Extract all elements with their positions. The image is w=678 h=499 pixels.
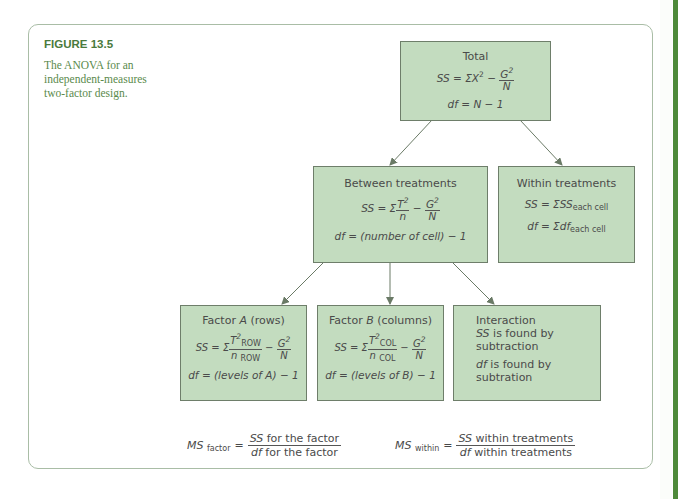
- ms-within-formula: MS within = SS within treatmentsdf withi…: [395, 432, 575, 459]
- total-df: df = N − 1: [401, 98, 550, 110]
- within-label: Within treatments: [499, 177, 634, 190]
- between-df: df = (number of cell) − 1: [314, 230, 487, 242]
- within-df-formula: df = Σdfeach cell: [499, 220, 634, 234]
- total-ss-formula: SS = ΣX2 − G2N: [401, 65, 550, 92]
- arrow-total-to-within: [520, 120, 562, 165]
- interaction-label: Interaction: [476, 314, 590, 327]
- factor-b-box: Factor B (columns) SS = ΣT2COLn COL − G2…: [317, 305, 444, 401]
- between-label: Between treatments: [314, 177, 487, 190]
- ms-factor-formula: MS factor = SS for the factordf for the …: [187, 432, 341, 459]
- factor-b-ss-formula: SS = ΣT2COLn COL − G2N: [318, 331, 443, 364]
- factor-b-label: Factor B (columns): [318, 314, 443, 327]
- within-treatments-box: Within treatments SS = ΣSSeach cell df =…: [498, 166, 635, 263]
- interaction-df-text: df is found by subtration: [476, 358, 576, 384]
- factor-b-df: df = (levels of B) − 1: [318, 369, 443, 381]
- factor-a-box: Factor A (rows) SS = ΣT2ROWn ROW − G2N d…: [180, 305, 307, 401]
- arrow-between-to-factor-a: [282, 262, 324, 304]
- factor-a-label: Factor A (rows): [181, 314, 306, 327]
- factor-a-df: df = (levels of A) − 1: [181, 369, 306, 381]
- total-box: Total SS = ΣX2 − G2N df = N − 1: [400, 41, 551, 121]
- total-label: Total: [401, 50, 550, 63]
- factor-a-ss-formula: SS = ΣT2ROWn ROW − G2N: [181, 331, 306, 364]
- arrow-between-to-interaction: [452, 262, 494, 304]
- interaction-box: Interaction SS is found by subtraction d…: [453, 305, 601, 401]
- within-ss-formula: SS = ΣSSeach cell: [499, 198, 634, 212]
- interaction-ss-text: SS is found by subtraction: [476, 327, 576, 353]
- arrow-total-to-between: [390, 120, 432, 165]
- between-treatments-box: Between treatments SS = ΣT2n − G2N df = …: [313, 166, 488, 263]
- between-ss-formula: SS = ΣT2n − G2N: [314, 195, 487, 222]
